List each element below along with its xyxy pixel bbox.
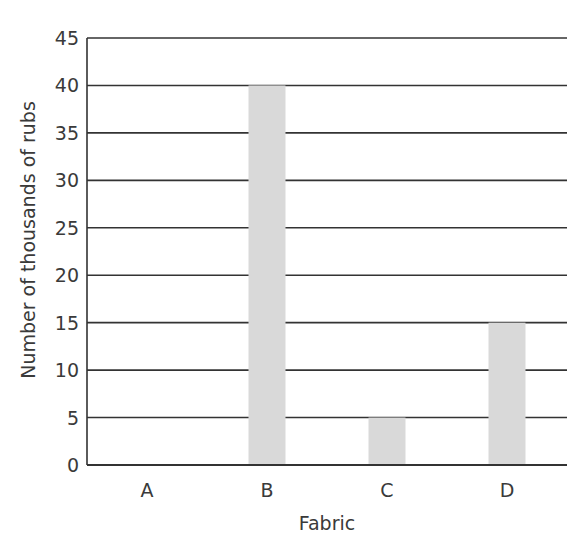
y-tick-label: 45 [55, 27, 79, 49]
y-axis-title: Number of thousands of rubs [17, 101, 39, 379]
bar-c [369, 418, 406, 465]
bar-d [489, 323, 526, 465]
x-category-label: D [500, 479, 515, 501]
y-tick-label: 40 [55, 74, 79, 96]
y-tick-label: 10 [55, 359, 79, 381]
x-category-label: A [141, 479, 154, 501]
y-tick-label: 30 [55, 169, 79, 191]
x-category-label: C [380, 479, 393, 501]
bar-b [249, 85, 286, 465]
y-axis-ticks: 051015202530354045 [55, 27, 79, 476]
y-tick-label: 5 [67, 407, 79, 429]
x-axis-title: Fabric [299, 512, 355, 534]
x-category-label: B [260, 479, 273, 501]
x-axis-categories: ABCD [141, 479, 515, 501]
y-tick-label: 20 [55, 264, 79, 286]
bar-chart: 051015202530354045 ABCD Fabric Number of… [0, 0, 583, 544]
y-tick-label: 15 [55, 312, 79, 334]
y-tick-label: 0 [67, 454, 79, 476]
y-tick-label: 35 [55, 122, 79, 144]
y-tick-label: 25 [55, 217, 79, 239]
